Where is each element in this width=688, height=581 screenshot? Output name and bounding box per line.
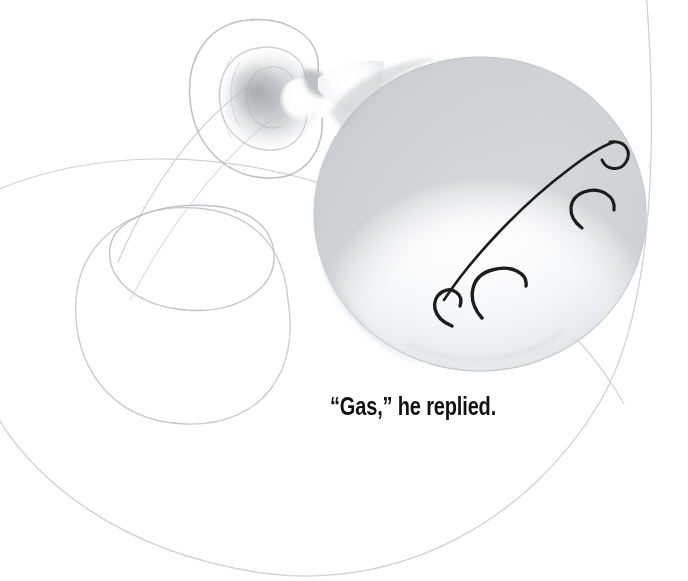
balloon-body <box>314 57 646 371</box>
illustration-canvas: “Gas,” he replied. <box>0 0 688 581</box>
balloon-drawing <box>0 0 688 581</box>
